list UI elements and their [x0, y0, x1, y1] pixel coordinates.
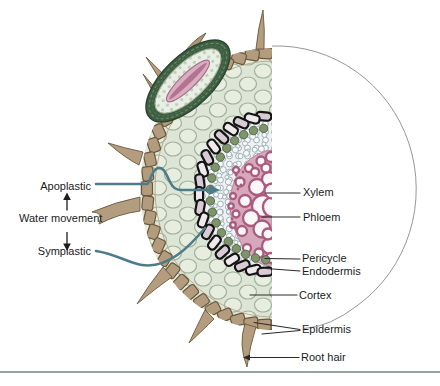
right-half-outline [272, 46, 416, 329]
label-symplastic: Symplastic [14, 245, 91, 258]
label-root-hair: Root hair [301, 351, 346, 364]
label-xylem: Xylem [303, 186, 334, 199]
label-endodermis: Endodermis [302, 265, 361, 278]
arrow-up-icon [63, 193, 71, 201]
label-water-movement: Water movement [19, 212, 102, 225]
bottom-rule [0, 371, 440, 373]
root-hair-labeled [242, 324, 256, 367]
label-apoplastic: Apoplastic [14, 180, 91, 193]
root-hair-left [108, 143, 143, 165]
leader-epidermis-lower [262, 331, 300, 335]
root-cross-section-illustration [0, 0, 440, 386]
label-pericycle: Pericycle [302, 252, 347, 265]
label-phloem: Phloem [303, 211, 340, 224]
label-cortex: Cortex [299, 289, 331, 302]
leader-pericycle [265, 259, 300, 260]
root-hair-bottom-left [189, 310, 214, 343]
figure-canvas: Apoplastic Water movement Symplastic Xyl… [0, 0, 440, 386]
root-hair-top [256, 10, 264, 49]
label-epidermis: Epidermis [302, 323, 351, 336]
root-hair-lower-left [137, 267, 172, 304]
